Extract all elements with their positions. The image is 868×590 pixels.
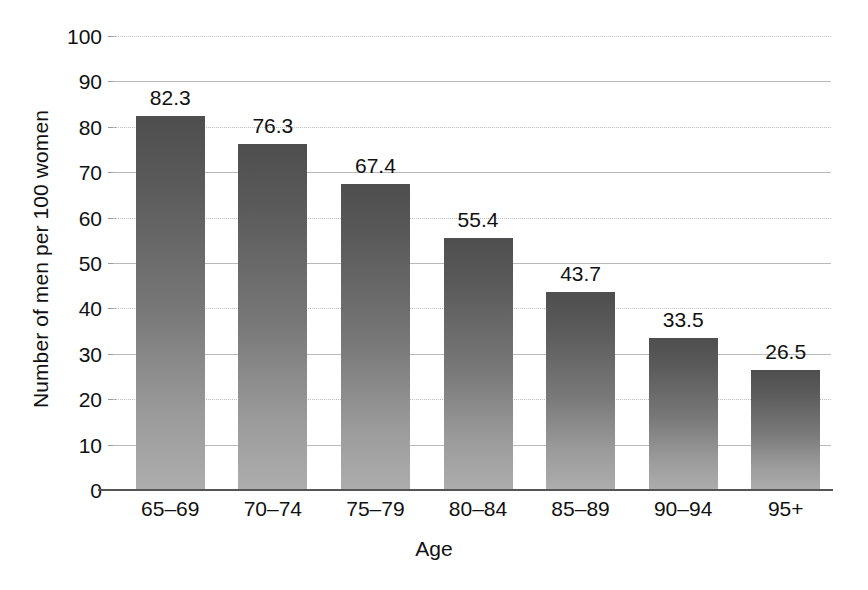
y-axis-tick-label: 100 bbox=[42, 26, 102, 47]
y-axis-tick-label: 70 bbox=[42, 162, 102, 183]
y-axis-tick-label: 40 bbox=[42, 298, 102, 319]
bar-value-label: 33.5 bbox=[629, 309, 738, 330]
x-axis-title: Age bbox=[0, 537, 868, 561]
x-axis-tick-label: 80–84 bbox=[419, 498, 538, 519]
bar bbox=[238, 144, 307, 490]
bar bbox=[136, 116, 205, 490]
y-axis-tick-labels: 0102030405060708090100 bbox=[42, 36, 102, 490]
y-axis-tick-label: 50 bbox=[42, 253, 102, 274]
bar bbox=[341, 184, 410, 490]
gridline bbox=[113, 172, 831, 173]
y-axis-tick-label: 10 bbox=[42, 435, 102, 456]
y-axis-tick-label: 20 bbox=[42, 389, 102, 410]
plot-area: 82.376.367.455.443.733.526.5 bbox=[113, 36, 831, 490]
x-axis-tick-label: 70–74 bbox=[213, 498, 332, 519]
bar bbox=[649, 338, 718, 490]
gridline bbox=[113, 36, 831, 37]
x-axis-tick-label: 95+ bbox=[726, 498, 845, 519]
y-axis-tick-label: 60 bbox=[42, 208, 102, 229]
y-axis-tick-label: 80 bbox=[42, 117, 102, 138]
x-axis-tick-label: 85–89 bbox=[521, 498, 640, 519]
x-axis-tick-label: 75–79 bbox=[316, 498, 435, 519]
y-axis-tick-label: 30 bbox=[42, 344, 102, 365]
x-axis-line bbox=[98, 489, 833, 491]
bar-chart: Number of men per 100 women 010203040506… bbox=[0, 0, 868, 590]
y-axis-tick-label: 0 bbox=[42, 480, 102, 501]
bar-value-label: 67.4 bbox=[321, 155, 430, 176]
x-axis-tick-label: 65–69 bbox=[111, 498, 230, 519]
bar bbox=[444, 238, 513, 490]
bar-value-label: 55.4 bbox=[424, 209, 533, 230]
x-axis-tick-label: 90–94 bbox=[624, 498, 743, 519]
bar-value-label: 26.5 bbox=[731, 341, 840, 362]
y-axis-tick-label: 90 bbox=[42, 71, 102, 92]
bar-value-label: 82.3 bbox=[116, 87, 225, 108]
gridline bbox=[113, 81, 831, 82]
bar bbox=[546, 292, 615, 490]
bar-value-label: 43.7 bbox=[526, 263, 635, 284]
bar bbox=[751, 370, 820, 490]
bar-value-label: 76.3 bbox=[218, 115, 327, 136]
